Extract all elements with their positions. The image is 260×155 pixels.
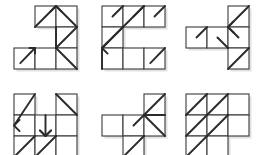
grid-cell[interactable] xyxy=(228,94,249,115)
panel-bottom-left-canvas xyxy=(14,94,83,155)
figure-root xyxy=(0,0,260,155)
panel-top-center xyxy=(102,6,171,75)
grid-cell[interactable] xyxy=(207,136,228,155)
panel-bottom-center xyxy=(102,94,171,155)
panel-top-right xyxy=(186,6,255,75)
grid-cell[interactable] xyxy=(123,48,144,69)
grid-cell[interactable] xyxy=(14,115,35,136)
grid-cell[interactable] xyxy=(56,136,77,155)
panel-top-left xyxy=(14,6,83,75)
panel-bottom-right-canvas xyxy=(186,94,255,155)
panel-bottom-left xyxy=(14,94,83,155)
panel-bottom-right xyxy=(186,94,255,155)
grid-cell[interactable] xyxy=(102,115,123,136)
grid-cell[interactable] xyxy=(56,115,77,136)
grid-cell[interactable] xyxy=(228,115,249,136)
grid-cell[interactable] xyxy=(35,48,56,69)
panel-top-center-canvas xyxy=(102,6,171,75)
panel-top-right-canvas xyxy=(186,6,255,75)
panel-bottom-center-canvas xyxy=(102,94,171,155)
panel-top-left-canvas xyxy=(14,6,83,75)
